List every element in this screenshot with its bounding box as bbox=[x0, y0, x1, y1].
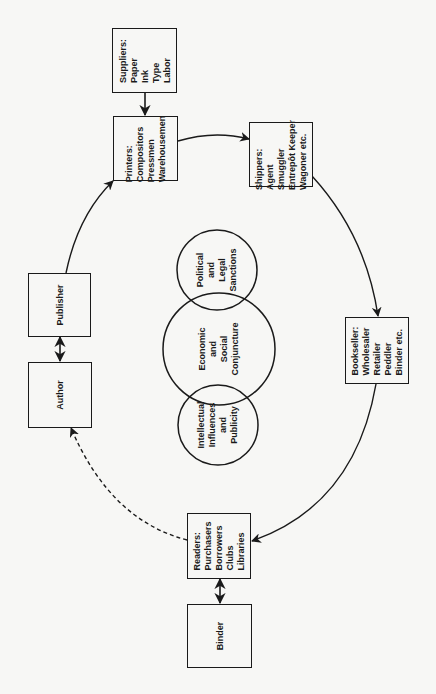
suppliers-title: Suppliers: bbox=[117, 38, 128, 82]
node-shippers: Shippers: Agent Smuggler Entrepôt Keeper… bbox=[249, 122, 313, 187]
shippers-title: Shippers: bbox=[254, 119, 265, 189]
printers-item: Pressmen bbox=[146, 115, 157, 182]
bookseller-item: Wholesaler bbox=[361, 326, 372, 375]
suppliers-item: Ink bbox=[139, 38, 150, 82]
binder-title: Binder bbox=[214, 622, 225, 651]
node-publisher: Publisher bbox=[28, 273, 91, 337]
circle-text: Economic bbox=[197, 323, 208, 376]
shippers-item: Entrepôt Keeper bbox=[287, 119, 298, 189]
readers-item: Libraries bbox=[236, 521, 247, 570]
node-author: Author bbox=[28, 362, 92, 428]
suppliers-item: Type bbox=[150, 38, 161, 82]
node-bookseller-label: Bookseller: Wholesaler Retailer Peddler … bbox=[350, 326, 405, 375]
node-suppliers-label: Suppliers: Paper Ink Type Labor bbox=[117, 38, 172, 82]
edge-bookseller-readers bbox=[252, 384, 376, 541]
circle-political-label: Political and Legal Sanctions bbox=[195, 248, 239, 291]
circle-text: Publicity bbox=[229, 401, 240, 448]
circle-text: Intellectual bbox=[196, 401, 207, 448]
node-shippers-label: Shippers: Agent Smuggler Entrepôt Keeper… bbox=[254, 119, 309, 189]
edge-shippers-bookseller bbox=[312, 176, 378, 316]
circle-text: Influences bbox=[207, 401, 218, 448]
shippers-item: Wagoner etc. bbox=[298, 119, 309, 189]
node-printers-label: Printers: Compositors Pressmen Warehouse… bbox=[124, 115, 168, 182]
circle-text: Sanctions bbox=[228, 248, 239, 291]
author-title: Author bbox=[55, 380, 66, 410]
readers-item: Purchasers bbox=[203, 521, 214, 570]
circle-text: and bbox=[208, 323, 219, 376]
bookseller-item: Retailer bbox=[372, 326, 383, 375]
suppliers-item: Paper bbox=[128, 38, 139, 82]
circle-economic-label: Economic and Social Conjuncture bbox=[197, 323, 241, 376]
bookseller-item: Peddler bbox=[383, 326, 394, 375]
edge-printers-shippers bbox=[178, 135, 249, 141]
node-author-label: Author bbox=[55, 380, 66, 410]
circle-text: Political bbox=[195, 248, 206, 291]
node-suppliers: Suppliers: Paper Ink Type Labor bbox=[112, 28, 177, 93]
readers-title: Readers: bbox=[192, 521, 203, 570]
circle-text: and bbox=[206, 248, 217, 291]
edge-readers-author bbox=[71, 428, 187, 540]
node-printers: Printers: Compositors Pressmen Warehouse… bbox=[113, 116, 178, 181]
shippers-item: Smuggler bbox=[276, 119, 287, 189]
printers-item: Compositors bbox=[135, 115, 146, 182]
bookseller-title: Bookseller: bbox=[350, 326, 361, 375]
bookseller-item: Binder etc. bbox=[394, 326, 405, 375]
publisher-title: Publisher bbox=[54, 284, 65, 325]
suppliers-item: Labor bbox=[161, 38, 172, 82]
readers-item: Clubs bbox=[225, 521, 236, 570]
node-bookseller: Bookseller: Wholesaler Retailer Peddler … bbox=[345, 317, 409, 384]
node-readers: Readers: Purchasers Borrowers Clubs Libr… bbox=[187, 513, 251, 579]
node-publisher-label: Publisher bbox=[54, 284, 65, 325]
printers-item: Warehousemen bbox=[157, 115, 168, 182]
circle-intellectual-label: Intellectual Influences and Publicity bbox=[196, 401, 240, 448]
node-binder: Binder bbox=[187, 604, 252, 668]
circle-text: Social bbox=[219, 323, 230, 376]
node-readers-label: Readers: Purchasers Borrowers Clubs Libr… bbox=[192, 521, 247, 570]
circle-text: Conjuncture bbox=[230, 323, 241, 376]
node-binder-label: Binder bbox=[214, 622, 225, 651]
readers-item: Borrowers bbox=[214, 521, 225, 570]
circle-text: and bbox=[218, 401, 229, 448]
shippers-item: Agent bbox=[265, 119, 276, 189]
circle-text: Legal bbox=[217, 248, 228, 291]
printers-title: Printers: bbox=[124, 115, 135, 182]
edge-publisher-printers bbox=[66, 181, 113, 273]
